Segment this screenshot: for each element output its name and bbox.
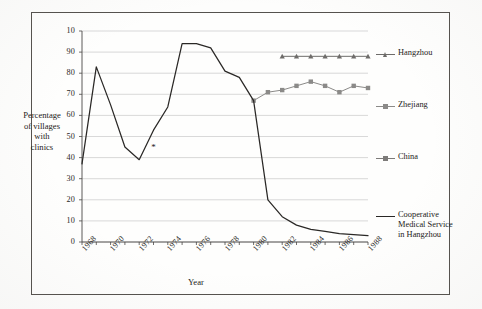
series-zhejiang: [251, 79, 370, 102]
y-tick-label: 70: [49, 89, 75, 98]
legend-label: Zhejiang: [395, 100, 428, 110]
y-axis-title-line: clinics: [11, 142, 73, 153]
y-tick-label: 80: [49, 68, 75, 77]
y-tick-label: 0: [49, 237, 75, 246]
chart-figure: * Percentageof villageswithclinics Year …: [0, 0, 482, 309]
data-point-marker: [280, 88, 284, 92]
y-tick-label: 50: [49, 132, 75, 141]
y-tick-label: 10: [49, 26, 75, 35]
y-tick-label: 10: [49, 216, 75, 225]
data-point-marker: [366, 86, 370, 90]
y-axis-title-line: of villages: [11, 121, 73, 132]
legend-triangle-icon: [376, 50, 395, 59]
legend-label: Hangzhou: [395, 48, 432, 58]
gridlines: [82, 31, 368, 242]
y-tick-label: 40: [49, 153, 75, 162]
data-point-marker: [352, 84, 356, 88]
legend-item-zhejiang[interactable]: Zhejiang: [376, 100, 428, 111]
series-line: [82, 44, 368, 236]
legend-item-hangzhou[interactable]: Hangzhou: [376, 48, 432, 59]
data-point-marker: [323, 84, 327, 88]
data-point-marker: [294, 84, 298, 88]
legend-item-cooperative[interactable]: Cooperative Medical Service in Hangzhou: [376, 210, 453, 239]
legend-square-icon: [376, 154, 395, 163]
series-line: [254, 82, 368, 101]
legend-line-icon: [376, 212, 395, 221]
asterisk-marker: *: [151, 142, 156, 152]
legend-item-china[interactable]: China: [376, 152, 418, 163]
data-point-marker: [266, 90, 270, 94]
legend-square-icon: [376, 102, 395, 111]
data-point-marker: [309, 79, 313, 83]
x-axis-title: Year: [188, 277, 204, 287]
y-tick-label: 30: [49, 174, 75, 183]
y-tick-label: 90: [49, 47, 75, 56]
series-cooperative: [82, 44, 368, 236]
data-point-marker: [337, 90, 341, 94]
legend-label: China: [395, 152, 418, 162]
legend-label: Cooperative Medical Service in Hangzhou: [395, 210, 453, 239]
y-tick-label: 60: [49, 110, 75, 119]
series-hangzhou: [280, 54, 371, 59]
y-tick-label: 20: [49, 195, 75, 204]
